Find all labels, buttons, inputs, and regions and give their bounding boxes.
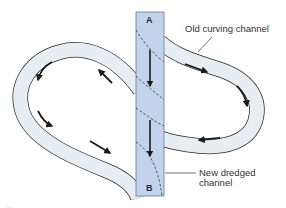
old-channel-leader-line [198, 37, 212, 52]
figure-caption-fragment: ... [6, 201, 13, 208]
arrow-icon [90, 141, 110, 153]
point-b-label: B [146, 183, 153, 193]
point-a-label: A [146, 15, 153, 25]
old-channel-label: Old curving channel [185, 24, 269, 34]
arrow-icon [38, 111, 52, 126]
new-dredged-channel [136, 12, 164, 196]
old-channel-left-loop [20, 50, 140, 198]
new-channel-label-line2: channel [199, 178, 232, 188]
arrow-icon [99, 70, 112, 83]
